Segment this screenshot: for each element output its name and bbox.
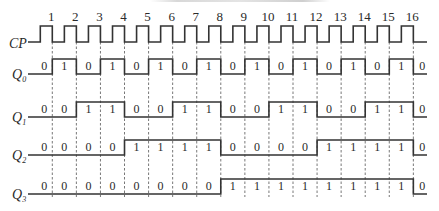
bit-value: 1 bbox=[158, 140, 164, 154]
signal-q0: Q001010101010101010 bbox=[12, 59, 427, 84]
bit-value: 0 bbox=[302, 140, 308, 154]
bit-value: 1 bbox=[230, 179, 236, 193]
bit-value: 1 bbox=[302, 102, 308, 116]
bit-value: 0 bbox=[61, 179, 67, 193]
bit-value: 1 bbox=[206, 102, 212, 116]
bit-value: 0 bbox=[158, 179, 164, 193]
bit-value: 1 bbox=[278, 102, 284, 116]
bit-value: 1 bbox=[302, 59, 308, 73]
bit-value: 1 bbox=[398, 59, 404, 73]
bit-value: 0 bbox=[182, 179, 188, 193]
bit-value: 0 bbox=[419, 179, 425, 193]
bit-value: 0 bbox=[326, 102, 332, 116]
bit-value: 0 bbox=[374, 59, 380, 73]
bit-value: 1 bbox=[61, 59, 67, 73]
clock-label: CP bbox=[9, 36, 27, 51]
signal-label: Q2 bbox=[12, 148, 26, 165]
bit-value: 0 bbox=[85, 59, 91, 73]
bit-value: 0 bbox=[61, 102, 67, 116]
pulse-number: 1 bbox=[48, 9, 55, 24]
bit-value: 1 bbox=[254, 179, 260, 193]
bit-value: 1 bbox=[182, 102, 188, 116]
bit-value: 0 bbox=[230, 59, 236, 73]
bit-value: 1 bbox=[398, 179, 404, 193]
bit-value: 0 bbox=[254, 140, 260, 154]
bit-value: 0 bbox=[134, 59, 140, 73]
pulse-number: 4 bbox=[120, 9, 127, 24]
signal-label: Q1 bbox=[12, 110, 26, 127]
pulse-number: 5 bbox=[144, 9, 151, 24]
bit-value: 1 bbox=[398, 140, 404, 154]
bit-value: 0 bbox=[230, 102, 236, 116]
bit-value: 0 bbox=[419, 102, 425, 116]
bit-value: 1 bbox=[85, 102, 91, 116]
pulse-number: 9 bbox=[241, 9, 248, 24]
pulse-number: 2 bbox=[72, 9, 79, 24]
pulse-number: 8 bbox=[217, 9, 224, 24]
bit-value: 0 bbox=[182, 59, 188, 73]
signal-q1: Q100110011001100110 bbox=[12, 102, 427, 127]
bit-value: 0 bbox=[134, 102, 140, 116]
bit-value: 0 bbox=[109, 179, 115, 193]
bit-value: 0 bbox=[206, 179, 212, 193]
bit-value: 1 bbox=[182, 140, 188, 154]
bit-value: 1 bbox=[206, 59, 212, 73]
bit-value: 0 bbox=[254, 102, 260, 116]
timing-diagram: CP 12345678910111213141516 Q001010101010… bbox=[0, 0, 439, 211]
signal-q3: Q300000000111111110 bbox=[12, 179, 427, 204]
bit-value: 1 bbox=[398, 102, 404, 116]
bit-value: 1 bbox=[374, 179, 380, 193]
pulse-number: 11 bbox=[286, 9, 299, 24]
bit-value: 1 bbox=[350, 140, 356, 154]
bit-value: 0 bbox=[109, 140, 115, 154]
bit-value: 1 bbox=[374, 102, 380, 116]
signal-label: Q0 bbox=[12, 67, 26, 84]
pulse-numbers: 12345678910111213141516 bbox=[48, 9, 419, 24]
bit-value: 0 bbox=[419, 59, 425, 73]
bit-value: 0 bbox=[158, 102, 164, 116]
bit-value: 1 bbox=[158, 59, 164, 73]
bit-value: 0 bbox=[85, 140, 91, 154]
bit-value: 1 bbox=[302, 179, 308, 193]
bit-value: 1 bbox=[374, 140, 380, 154]
bit-value: 0 bbox=[41, 59, 47, 73]
bit-value: 0 bbox=[41, 102, 47, 116]
bit-value: 0 bbox=[134, 179, 140, 193]
bit-value: 1 bbox=[134, 140, 140, 154]
bit-value: 1 bbox=[278, 179, 284, 193]
bit-value: 0 bbox=[278, 140, 284, 154]
pulse-number: 13 bbox=[334, 9, 347, 24]
bit-value: 1 bbox=[206, 140, 212, 154]
signal-q2: Q200001111000011110 bbox=[12, 140, 427, 165]
bit-value: 0 bbox=[326, 59, 332, 73]
output-signals: Q001010101010101010Q100110011001100110Q2… bbox=[12, 59, 427, 204]
bit-value: 0 bbox=[278, 59, 284, 73]
bit-value: 1 bbox=[326, 179, 332, 193]
pulse-number: 10 bbox=[261, 9, 274, 24]
pulse-number: 7 bbox=[192, 9, 199, 24]
bit-value: 1 bbox=[109, 102, 115, 116]
bit-value: 1 bbox=[109, 59, 115, 73]
bit-value: 1 bbox=[326, 140, 332, 154]
clock-signal-cp: CP 12345678910111213141516 bbox=[9, 9, 427, 51]
pulse-number: 16 bbox=[406, 9, 420, 24]
pulse-number: 6 bbox=[168, 9, 175, 24]
bit-value: 0 bbox=[419, 140, 425, 154]
pulse-number: 14 bbox=[358, 9, 372, 24]
signal-label: Q3 bbox=[12, 187, 26, 204]
bit-value: 0 bbox=[230, 140, 236, 154]
bit-value: 0 bbox=[85, 179, 91, 193]
bit-value: 0 bbox=[350, 102, 356, 116]
bit-value: 0 bbox=[41, 179, 47, 193]
pulse-number: 15 bbox=[382, 9, 395, 24]
bit-value: 1 bbox=[254, 59, 260, 73]
pulse-number: 3 bbox=[96, 9, 103, 24]
bit-value: 0 bbox=[41, 140, 47, 154]
clock-waveform bbox=[28, 26, 427, 42]
bit-value: 0 bbox=[61, 140, 67, 154]
pulse-number: 12 bbox=[310, 9, 323, 24]
bit-value: 1 bbox=[350, 59, 356, 73]
bit-value: 1 bbox=[350, 179, 356, 193]
